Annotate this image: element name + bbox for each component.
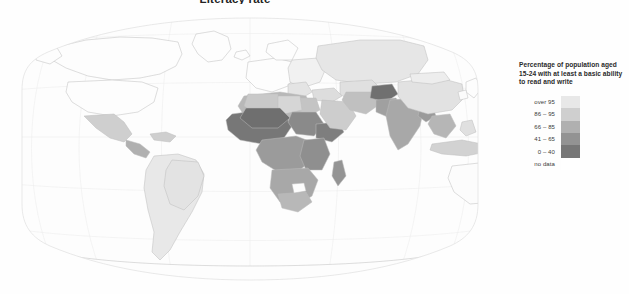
legend-heading: Percentage of population aged 15-24 with… xyxy=(519,61,627,87)
legend-item-66-85[interactable]: 66 – 85 xyxy=(519,121,627,133)
legend-heading-line-1: Percentage of population aged xyxy=(519,61,627,70)
legend-item-0-40[interactable]: 0 – 40 xyxy=(519,145,627,157)
legend-item-86-95[interactable]: 86 – 95 xyxy=(519,108,627,120)
legend-swatch xyxy=(561,108,580,120)
legend-item-over-95[interactable]: over 95 xyxy=(519,96,627,108)
legend-label: 86 – 95 xyxy=(519,111,561,117)
map-legend: Percentage of population aged 15-24 with… xyxy=(519,61,627,170)
legend-label: no data xyxy=(519,161,561,167)
legend-swatch xyxy=(561,133,580,145)
legend-swatch xyxy=(561,121,580,133)
legend-entries: over 95 86 – 95 66 – 85 41 – 65 0 – 40 n xyxy=(519,96,627,170)
region-botswana[interactable] xyxy=(292,183,306,193)
legend-swatch xyxy=(561,158,580,170)
legend-heading-line-2: 15-24 with at least a basic ability xyxy=(519,70,627,79)
legend-swatch xyxy=(561,96,580,108)
legend-label: 0 – 40 xyxy=(519,149,561,155)
legend-label: 41 – 65 xyxy=(519,136,561,142)
world-map[interactable] xyxy=(0,4,500,294)
world-map-svg[interactable] xyxy=(0,4,500,294)
legend-label: 66 – 85 xyxy=(519,124,561,130)
legend-label: over 95 xyxy=(519,99,561,105)
legend-item-41-65[interactable]: 41 – 65 xyxy=(519,133,627,145)
region-korea[interactable] xyxy=(458,90,468,100)
map-figure: Literacy rate xyxy=(0,0,629,294)
legend-swatch xyxy=(561,145,580,157)
legend-heading-line-3: to read and write xyxy=(519,78,627,87)
legend-item-no-data[interactable]: no data xyxy=(519,158,627,170)
